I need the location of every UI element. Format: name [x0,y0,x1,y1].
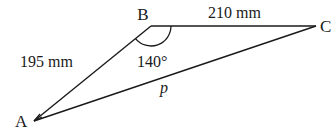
angle-label-b: 140° [137,53,167,70]
side-ac [34,26,316,121]
side-label-ac: p [159,79,168,97]
vertex-label-c: C [320,17,331,36]
triangle-diagram: B C A 195 mm 210 mm p 140° [0,0,332,137]
vertex-label-b: B [137,5,148,24]
side-ab [34,26,151,121]
vertex-label-a: A [15,112,28,131]
angle-arc-b [136,26,172,46]
side-label-ab: 195 mm [20,53,73,70]
side-label-bc: 210 mm [208,4,261,21]
